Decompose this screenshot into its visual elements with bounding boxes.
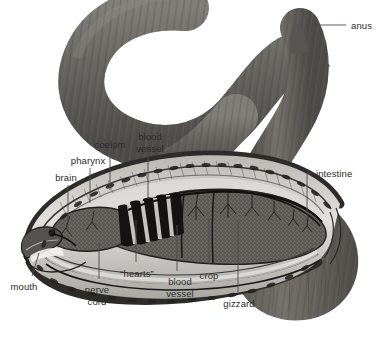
label-blood-vessel-top: blood vessel	[136, 131, 164, 154]
label-intestine: intestine	[316, 168, 352, 180]
label-mouth: mouth	[11, 281, 38, 293]
label-pharynx: pharynx	[71, 155, 106, 167]
label-hearts: “hearts”	[120, 268, 154, 280]
label-anus: anus	[351, 20, 372, 32]
label-gizzard: gizzard	[223, 298, 254, 310]
label-crop: crop	[200, 270, 219, 282]
label-blood-vessel-bottom: blood vessel	[166, 276, 194, 299]
earthworm-anatomy-figure: anuscoelomblood vesselpharynxbrainintest…	[0, 0, 387, 346]
label-coelom: coelom	[94, 139, 125, 151]
label-nerve-cord: nerve cord	[85, 284, 109, 307]
label-brain: brain	[55, 172, 77, 184]
